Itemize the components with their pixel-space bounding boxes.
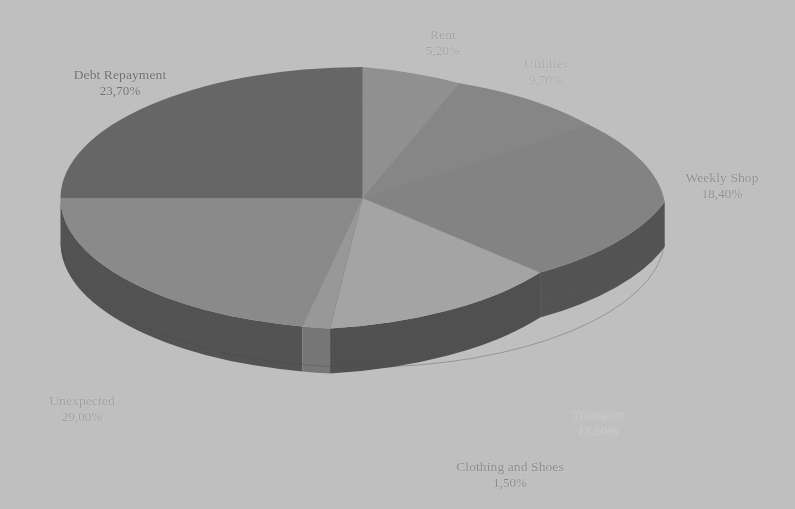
pie-label-weekly-shop-value: 18,40%: [660, 186, 784, 203]
pie-label-unexpected-value: 29,00%: [14, 409, 150, 426]
pie-label-unexpected: Unexpected 29,00%: [14, 392, 150, 426]
pie-label-weekly-shop-name: Weekly Shop: [660, 169, 784, 186]
pie-label-clothing-and-shoes-name: Clothing and Shoes: [418, 458, 602, 475]
pie-label-debt-repayment: Debt Repayment 23,70%: [32, 66, 208, 100]
pie-label-rent-name: Rent: [398, 26, 488, 43]
pie-chart: Rent 5,20% Utilities 9,70% Weekly Shop 1…: [0, 0, 795, 509]
pie-label-rent-value: 5,20%: [398, 43, 488, 60]
pie-label-clothing-and-shoes: Clothing and Shoes 1,50%: [418, 458, 602, 492]
pie-label-utilities: Utilities 9,70%: [496, 55, 596, 89]
pie-label-debt-repayment-name: Debt Repayment: [32, 66, 208, 83]
pie-label-transport: Transport 12,50%: [546, 406, 650, 440]
pie-label-clothing-and-shoes-value: 1,50%: [418, 475, 602, 492]
pie-label-rent: Rent 5,20%: [398, 26, 488, 60]
pie-label-utilities-value: 9,70%: [496, 72, 596, 89]
pie-label-transport-value: 12,50%: [546, 423, 650, 440]
pie-label-debt-repayment-value: 23,70%: [32, 83, 208, 100]
pie-label-utilities-name: Utilities: [496, 55, 596, 72]
pie-label-transport-name: Transport: [546, 406, 650, 423]
pie-label-unexpected-name: Unexpected: [14, 392, 150, 409]
pie-label-weekly-shop: Weekly Shop 18,40%: [660, 169, 784, 203]
